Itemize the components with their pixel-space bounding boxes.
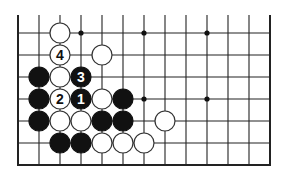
move-number: 2 xyxy=(56,91,64,107)
white-stone xyxy=(50,23,70,43)
black-stone xyxy=(29,111,49,131)
white-stone xyxy=(50,67,70,87)
white-stone-2: 2 xyxy=(50,89,70,109)
white-stone xyxy=(134,133,154,153)
move-number: 3 xyxy=(77,69,85,85)
white-stone xyxy=(92,45,112,65)
go-board: 4321 xyxy=(0,0,288,170)
star-point xyxy=(78,30,83,35)
white-stone xyxy=(71,111,91,131)
white-stone xyxy=(50,111,70,131)
black-stone-1: 1 xyxy=(71,89,91,109)
white-stone xyxy=(155,111,175,131)
black-stone xyxy=(92,111,112,131)
black-stone xyxy=(71,133,91,153)
star-point xyxy=(204,30,209,35)
black-stone-3: 3 xyxy=(71,67,91,87)
move-number: 1 xyxy=(77,91,85,107)
move-number: 4 xyxy=(56,47,64,63)
black-stone xyxy=(113,89,133,109)
black-stone xyxy=(29,67,49,87)
white-stone xyxy=(92,133,112,153)
star-point xyxy=(141,30,146,35)
star-point xyxy=(141,96,146,101)
black-stone xyxy=(29,89,49,109)
black-stone xyxy=(50,133,70,153)
white-stone xyxy=(113,133,133,153)
star-point xyxy=(204,96,209,101)
white-stone xyxy=(92,89,112,109)
white-stone-4: 4 xyxy=(50,45,70,65)
black-stone xyxy=(113,111,133,131)
